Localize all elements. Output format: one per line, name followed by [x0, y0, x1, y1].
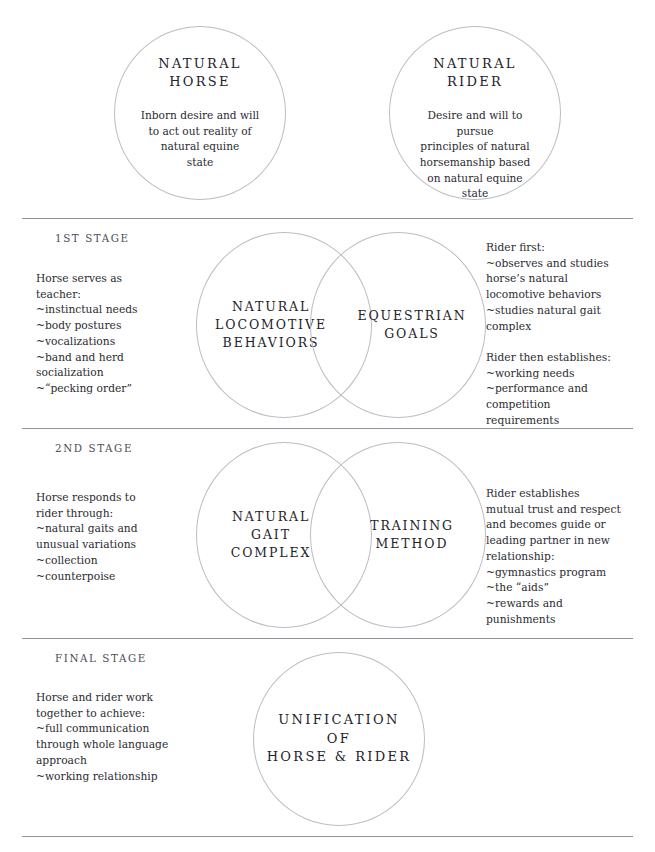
circle-equestrian-goals-title: Equestrian Goals: [337, 307, 487, 343]
stage-final-left-text: Horse and rider work together to achieve…: [36, 690, 206, 784]
circle-natural-rider-title: Natural Rider: [433, 55, 517, 92]
stage-1-venn: Natural Locomotive Behaviors Equestrian …: [196, 232, 486, 418]
circle-unification-of-horse-and-rider: Unification of Horse & Rider: [253, 652, 425, 826]
stage-1-right-text: Rider first: ~observes and studies horse…: [486, 240, 648, 429]
circle-natural-rider-body: Desire and will to pursue principles of …: [411, 108, 539, 202]
circle-natural-horse-body: Inborn desire and will to act out realit…: [136, 108, 264, 171]
stage-2-label: 2nd Stage: [55, 442, 133, 454]
circle-training-method-title: Training Method: [337, 517, 487, 553]
stage-section-2: 2nd Stage Horse responds to rider throug…: [0, 428, 655, 638]
circle-natural-rider: Natural Rider Desire and will to pursue …: [389, 26, 561, 200]
circle-unification-title: Unification of Horse & Rider: [259, 711, 419, 766]
stage-section-1: 1st Stage Horse serves as teacher: ~inst…: [0, 218, 655, 428]
stage-2-right-text: Rider establishes mutual trust and respe…: [486, 486, 648, 627]
stage-2-venn: Natural Gait Complex Training Method: [196, 442, 486, 628]
divider-bottom: [22, 836, 633, 837]
stage-final-label: Final Stage: [55, 652, 147, 664]
stage-1-left-text: Horse serves as teacher: ~instinctual ne…: [36, 271, 206, 397]
stage-section-final: Final Stage Horse and rider work togethe…: [0, 638, 655, 836]
circle-natural-horse: Natural Horse Inborn desire and will to …: [114, 26, 286, 200]
stage-2-left-text: Horse responds to rider through: ~natura…: [36, 490, 206, 584]
circle-training-method: Training Method: [310, 442, 486, 628]
circle-equestrian-goals: Equestrian Goals: [310, 232, 486, 418]
diagram-page: Natural Horse Inborn desire and will to …: [0, 0, 655, 852]
stage-1-label: 1st Stage: [55, 232, 130, 244]
circle-natural-horse-title: Natural Horse: [158, 55, 242, 92]
